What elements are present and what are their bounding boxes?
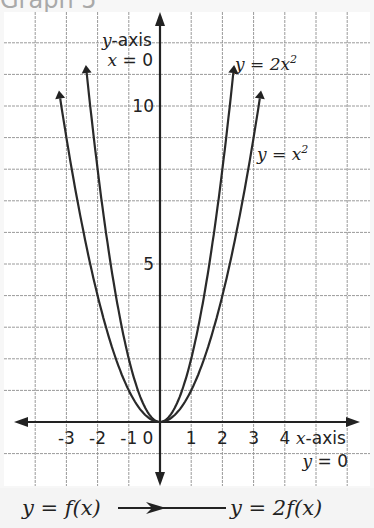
x-tick-label: -3 bbox=[58, 428, 75, 448]
series-label: y = 2x2 bbox=[234, 53, 297, 74]
curve-arrow-icon bbox=[255, 91, 265, 100]
x-tick-label: 4 bbox=[279, 428, 290, 448]
series-label: y = x2 bbox=[256, 143, 308, 164]
x-axis-right-arrow-icon bbox=[346, 417, 360, 427]
curve-arrow-icon bbox=[55, 91, 65, 100]
curve-arrow-icon bbox=[82, 65, 92, 73]
transformation-formula: y = f(x) y = 2f(x) bbox=[0, 488, 374, 528]
y-tick-label: 10 bbox=[132, 96, 154, 116]
y-axis-up-arrow-icon bbox=[155, 12, 165, 26]
parabola-chart: -3-2-101234510y-axisx = 0x-axisy = 0y = … bbox=[0, 0, 374, 488]
x-tick-label: 2 bbox=[217, 428, 228, 448]
y-axis-equation: x = 0 bbox=[108, 50, 153, 70]
x-axis-label: x-axis bbox=[296, 428, 346, 448]
y-tick-label: 5 bbox=[143, 254, 154, 274]
x-tick-label: -2 bbox=[89, 428, 106, 448]
formula-to: y = 2f(x) bbox=[229, 496, 322, 520]
x-axis-left-arrow-icon bbox=[14, 417, 28, 427]
y-axis-down-arrow-icon bbox=[155, 472, 165, 486]
x-tick-label: 1 bbox=[186, 428, 197, 448]
x-tick-label: 0 bbox=[143, 428, 154, 448]
x-tick-label: -1 bbox=[120, 428, 137, 448]
x-axis-equation: y = 0 bbox=[302, 451, 348, 471]
formula-from: y = f(x) bbox=[21, 496, 101, 520]
x-tick-label: 3 bbox=[248, 428, 259, 448]
y-axis-label: y-axis bbox=[101, 30, 152, 50]
